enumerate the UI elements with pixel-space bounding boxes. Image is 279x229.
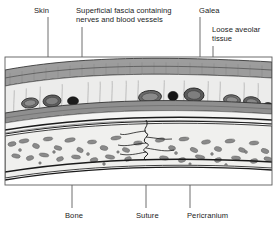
illustration-body [5, 56, 273, 185]
label-loose-aveolar-tissue: Loose aveolar tissue [212, 25, 260, 44]
label-superficial-fascia: Superficial fascia containing nerves and… [76, 6, 172, 25]
label-galea: Galea [199, 6, 220, 15]
label-skin: Skin [34, 6, 49, 15]
label-bone: Bone [65, 211, 83, 220]
label-suture: Suture [136, 211, 159, 220]
vessel-dark [168, 91, 178, 100]
label-pericranium: Pericranium [187, 211, 228, 220]
